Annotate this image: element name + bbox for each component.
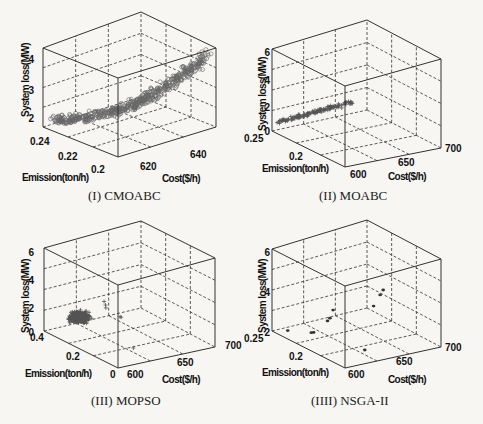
- scatter-points: [275, 99, 354, 125]
- z-axis-label: System loss(MW): [257, 57, 268, 131]
- y-tick-label: 0.2: [66, 351, 80, 362]
- x-axis-label: Cost($/h): [162, 374, 200, 385]
- z-axis-label: System loss(MW): [20, 259, 31, 333]
- y-tick-label: 0.24: [30, 136, 50, 147]
- z-axis-label: System loss(MW): [20, 43, 31, 117]
- panel-mopso: 64200.40.20600650700System loss(MW)Emiss…: [20, 221, 242, 385]
- z-axis-label: System loss(MW): [257, 259, 268, 333]
- x-axis-label: Cost($/h): [388, 171, 426, 182]
- x-axis-label: Cost($/h): [162, 173, 200, 184]
- x-tick-label: 600: [127, 369, 144, 380]
- y-axis-label: Emission(ton/h): [262, 163, 329, 174]
- y-tick-label: 0: [110, 369, 116, 380]
- x-tick-label: 640: [190, 149, 207, 160]
- caption-cmoabc: (I) CMOABC: [88, 188, 161, 204]
- x-axis-label: Cost($/h): [388, 374, 426, 385]
- x-tick-label: 650: [396, 356, 413, 367]
- caption-moabc: (II) MOABC: [319, 188, 387, 204]
- x-tick-label: 700: [445, 342, 462, 353]
- panel-moabc: 64200.250.2600650700System loss(MW)Emiss…: [244, 20, 462, 182]
- x-tick-label: 700: [225, 340, 242, 351]
- y-tick-label: 0.2: [91, 164, 105, 175]
- z-tick-label: 6: [264, 47, 270, 58]
- y-tick-label: 0.25: [244, 333, 264, 344]
- x-tick-label: 620: [140, 161, 157, 172]
- x-tick-label: 650: [398, 157, 415, 168]
- figure-canvas: 4320.240.220.2620640System loss(MW)Emiss…: [0, 0, 483, 424]
- y-tick-label: 0.25: [244, 133, 264, 144]
- x-tick-label: 600: [348, 369, 365, 380]
- x-tick-label: 650: [177, 357, 194, 368]
- y-tick-label: 0.2: [289, 351, 303, 362]
- y-axis-label: Emission(ton/h): [22, 172, 89, 183]
- caption-nsga2: (IIII) NSGA-II: [311, 393, 389, 409]
- x-tick-label: 700: [445, 143, 462, 154]
- x-tick-label: 600: [350, 169, 367, 180]
- y-tick-label: 0.2: [289, 151, 303, 162]
- panel-cmoabc: 4320.240.220.2620640System loss(MW)Emiss…: [20, 12, 216, 184]
- scatter-points: [49, 48, 214, 126]
- y-tick-label: 0.22: [58, 151, 78, 162]
- z-tick-label: 6: [264, 247, 270, 258]
- y-axis-label: Emission(ton/h): [262, 367, 329, 378]
- scatter-points: [67, 300, 136, 350]
- z-tick-label: 6: [28, 247, 34, 258]
- caption-mopso: (III) MOPSO: [91, 393, 161, 409]
- panel-nsga2: 6420.250.2600650700System loss(MW)Emissi…: [244, 220, 462, 385]
- y-axis-label: Emission(ton/h): [25, 368, 92, 379]
- y-tick-label: 0.4: [30, 332, 44, 343]
